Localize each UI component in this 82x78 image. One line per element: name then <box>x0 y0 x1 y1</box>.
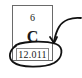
atomic-number: 6 <box>13 13 52 23</box>
atomic-mass: 12.011 <box>13 50 52 60</box>
element-symbol: C <box>13 29 52 45</box>
element-tile: 6 C 12.011 <box>12 5 53 61</box>
arrow-icon <box>54 18 81 41</box>
